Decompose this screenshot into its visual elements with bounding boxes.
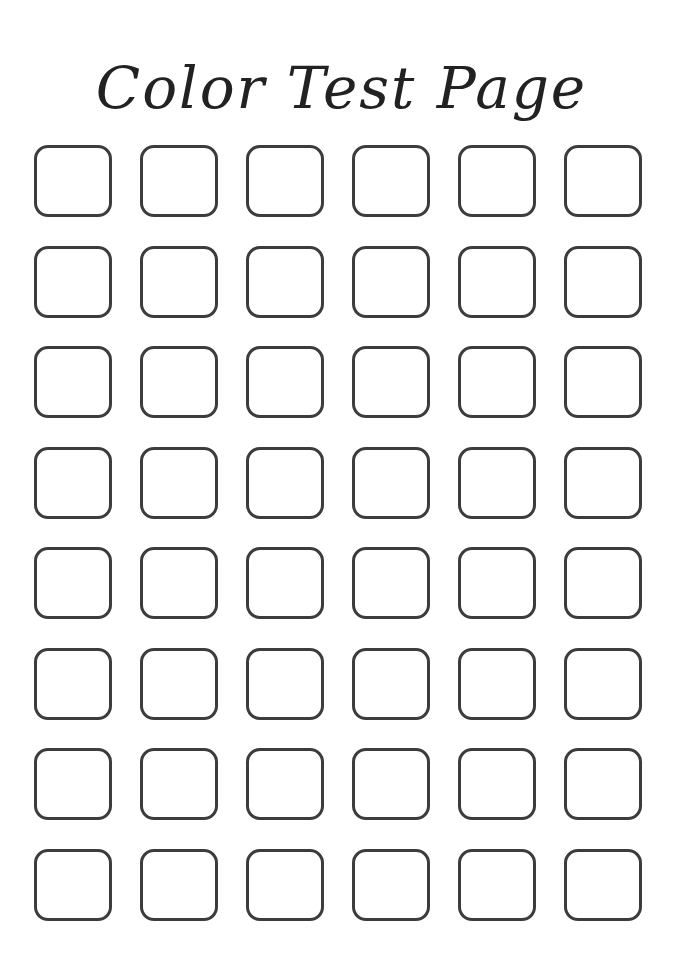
color-swatch-box	[34, 145, 112, 217]
color-swatch-box	[34, 547, 112, 619]
color-swatch-box	[458, 648, 536, 720]
color-swatch-box	[458, 547, 536, 619]
color-swatch-box	[352, 547, 430, 619]
color-swatch-box	[564, 849, 642, 921]
color-swatch-box	[458, 748, 536, 820]
color-swatch-box	[458, 145, 536, 217]
color-swatch-box	[140, 447, 218, 519]
color-swatch-box	[352, 648, 430, 720]
color-swatch-box	[34, 748, 112, 820]
color-swatch-box	[352, 849, 430, 921]
color-swatch-box	[34, 346, 112, 418]
color-swatch-box	[34, 849, 112, 921]
color-swatch-box	[140, 849, 218, 921]
color-swatch-box	[34, 246, 112, 318]
color-swatch-box	[246, 849, 324, 921]
color-swatch-box	[458, 447, 536, 519]
color-swatch-box	[246, 346, 324, 418]
color-swatch-box	[352, 246, 430, 318]
color-swatch-box	[564, 547, 642, 619]
color-swatch-box	[140, 547, 218, 619]
color-swatch-box	[564, 346, 642, 418]
swatch-grid	[34, 145, 642, 921]
color-swatch-box	[564, 145, 642, 217]
color-swatch-box	[246, 246, 324, 318]
color-swatch-box	[140, 145, 218, 217]
color-swatch-box	[140, 346, 218, 418]
color-swatch-box	[564, 648, 642, 720]
color-swatch-box	[246, 447, 324, 519]
color-swatch-box	[564, 447, 642, 519]
color-swatch-box	[352, 145, 430, 217]
color-swatch-box	[246, 748, 324, 820]
color-swatch-box	[564, 246, 642, 318]
color-swatch-box	[564, 748, 642, 820]
color-swatch-box	[458, 246, 536, 318]
color-swatch-box	[140, 246, 218, 318]
color-swatch-box	[34, 648, 112, 720]
color-swatch-box	[140, 748, 218, 820]
color-swatch-box	[352, 346, 430, 418]
page-title: Color Test Page	[0, 48, 683, 128]
color-swatch-box	[34, 447, 112, 519]
color-swatch-box	[352, 748, 430, 820]
color-swatch-box	[352, 447, 430, 519]
color-swatch-box	[246, 145, 324, 217]
color-swatch-box	[246, 648, 324, 720]
color-swatch-box	[246, 547, 324, 619]
color-swatch-box	[458, 849, 536, 921]
color-swatch-box	[458, 346, 536, 418]
color-swatch-box	[140, 648, 218, 720]
